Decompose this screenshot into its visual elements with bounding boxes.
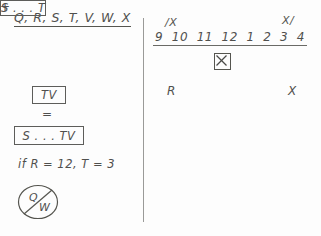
tick-label: 10	[172, 30, 188, 44]
condition-text: if R = 12, T = 3	[18, 157, 115, 171]
tick-label: 9	[155, 30, 163, 44]
circled-slash-icon: Q W	[16, 183, 60, 221]
equation-term-2-text: TV	[41, 88, 57, 102]
tick-label: 1	[246, 30, 254, 44]
circled-slash-glyph: Q W	[16, 183, 60, 221]
tick-label: 11	[197, 30, 213, 44]
equation-result-text: S . . . TV	[23, 129, 76, 143]
number-line: 9 10 11 12 1 2 3 4	[153, 30, 307, 46]
boxed-x-icon	[214, 53, 231, 70]
number-line-label-left: R	[167, 84, 176, 98]
circle-left-letter: Q	[29, 191, 38, 204]
boxed-x-glyph	[215, 54, 228, 67]
end-mark-left: /X	[165, 16, 177, 29]
right-panel: /X X/ 9 10 11 12 1 2 3 4 R X	[143, 0, 321, 236]
tick-label: 2	[263, 30, 271, 44]
number-line-ticks: 9 10 11 12 1 2 3 4	[153, 30, 307, 45]
equation-operator-plus: +	[0, 0, 11, 14]
number-line-label-right: X	[288, 84, 297, 98]
worksheet-page: Q, R, S, T, V, W, X S . . . T + TV = S .…	[0, 0, 321, 236]
equation-operator-equals: =	[42, 107, 53, 121]
circle-right-letter: W	[39, 201, 51, 214]
left-panel: Q, R, S, T, V, W, X S . . . T + TV = S .…	[0, 0, 143, 236]
equation-term-2-box: TV	[32, 86, 66, 104]
tick-label: 4	[297, 30, 305, 44]
equation-result-box: S . . . TV	[14, 126, 84, 145]
end-mark-right: X/	[282, 14, 294, 27]
tick-label: 12	[222, 30, 238, 44]
number-line-rule	[153, 45, 307, 46]
tick-label: 3	[280, 30, 288, 44]
